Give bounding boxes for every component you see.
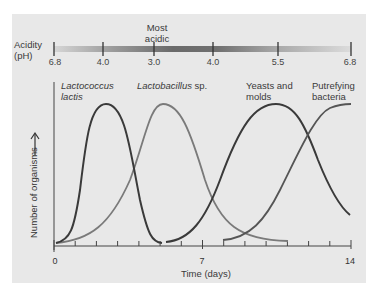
most-acidic-line1: Most <box>144 22 170 33</box>
ph-tick-label: 5.5 <box>272 57 285 67</box>
ph-tick-label: 4.0 <box>97 57 110 67</box>
x-axis-label: Time (days) <box>181 268 231 279</box>
x-tick-label: 0 <box>52 256 57 266</box>
x-axis <box>54 240 351 252</box>
y-axis-label: Number of organisms <box>28 147 39 238</box>
series-label-line: lactis <box>61 91 114 102</box>
x-tick-label: 7 <box>199 256 204 266</box>
most-acidic-line2: acidic <box>144 33 170 44</box>
series-label-yeasts-molds: Yeasts and molds <box>246 80 293 102</box>
most-acidic-annotation: Most acidic <box>144 22 170 44</box>
series-label-lactococcus: Lactococcus lactis <box>61 80 114 102</box>
series-yeasts-molds <box>166 104 350 242</box>
acidity-label-line1: Acidity <box>14 39 42 50</box>
series-label-line: Lactococcus <box>61 80 114 91</box>
series-label-suffix: sp. <box>192 80 207 91</box>
ph-tick-label: 6.8 <box>49 57 62 67</box>
acidity-label-line2: (pH) <box>14 50 42 61</box>
series-label-genus: Lactobacillus <box>137 80 192 91</box>
series-label-line: Putrefying <box>312 80 355 91</box>
series-label-line: molds <box>246 91 293 102</box>
ph-tick-label: 4.0 <box>207 57 220 67</box>
series-label-line: Yeasts and <box>246 80 293 91</box>
ph-tick-label: 3.0 <box>148 57 161 67</box>
series-label-line: bacteria <box>312 91 355 102</box>
x-tick-label: 14 <box>345 256 355 266</box>
series-lactococcus <box>56 104 162 243</box>
acidity-label: Acidity (pH) <box>14 39 42 61</box>
acidity-scale-bar <box>54 42 351 56</box>
series-label-lactobacillus: Lactobacillus sp. <box>137 80 207 91</box>
series-label-putrefying: Putrefying bacteria <box>312 80 355 102</box>
series-putrefying-bacteria <box>223 104 351 240</box>
ph-tick-label: 6.8 <box>344 57 357 67</box>
chart-plot <box>0 0 377 299</box>
